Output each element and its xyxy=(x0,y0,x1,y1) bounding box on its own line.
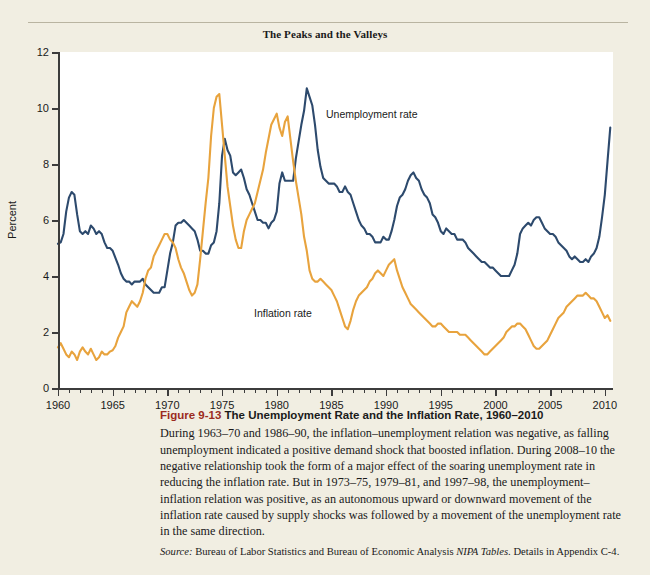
x-axis-minor-tick xyxy=(419,389,420,393)
figure-page: The Peaks and the Valleys Percent 024681… xyxy=(0,0,650,575)
x-axis-tick-label: 1960 xyxy=(46,399,70,411)
x-axis-minor-tick xyxy=(342,389,343,393)
y-axis-line xyxy=(58,52,60,388)
chart-series-lines xyxy=(58,52,613,388)
inflation-rate-line xyxy=(58,94,610,360)
x-axis-minor-tick xyxy=(561,389,562,393)
x-axis-minor-tick xyxy=(102,389,103,393)
x-axis-line xyxy=(58,388,613,390)
x-axis-minor-tick xyxy=(528,389,529,393)
inflation-rate-label: Inflation rate xyxy=(254,307,312,319)
x-axis-major-tick xyxy=(222,389,223,396)
y-axis-tick-label: 8 xyxy=(43,158,49,170)
x-axis-minor-tick xyxy=(430,389,431,393)
caption-heading-line: Figure 9-13 The Unemployment Rate and th… xyxy=(160,408,628,422)
x-axis-minor-tick xyxy=(299,389,300,393)
x-axis-minor-tick xyxy=(310,389,311,393)
x-axis-minor-tick xyxy=(91,389,92,393)
x-axis-major-tick xyxy=(550,389,551,396)
x-axis-minor-tick xyxy=(452,389,453,393)
x-axis-major-tick xyxy=(495,389,496,396)
x-axis-minor-tick xyxy=(156,389,157,393)
source-text-a: Bureau of Labor Statistics and Bureau of… xyxy=(193,546,457,557)
x-axis-minor-tick xyxy=(408,389,409,393)
x-axis-minor-tick xyxy=(69,389,70,393)
x-axis-minor-tick xyxy=(375,389,376,393)
source-text-b: . Details in Appendix C-4. xyxy=(508,546,619,557)
x-axis-minor-tick xyxy=(244,389,245,393)
caption-heading-text: The Unemployment Rate and the Inflation … xyxy=(225,409,544,421)
x-axis-major-tick xyxy=(441,389,442,396)
x-axis-minor-tick xyxy=(397,389,398,393)
figure-caption: Figure 9-13 The Unemployment Rate and th… xyxy=(160,408,628,559)
x-axis-minor-tick xyxy=(288,389,289,393)
x-axis-major-tick xyxy=(386,389,387,396)
x-axis-minor-tick xyxy=(572,389,573,393)
x-axis-minor-tick xyxy=(506,389,507,393)
x-axis-minor-tick xyxy=(200,389,201,393)
y-axis-tick-label: 12 xyxy=(37,46,49,58)
x-axis-minor-tick xyxy=(255,389,256,393)
x-axis-minor-tick xyxy=(594,389,595,393)
source-italic-title: NIPA Tables xyxy=(456,546,508,557)
y-axis-tick-label: 10 xyxy=(37,102,49,114)
caption-source: Source: Bureau of Labor Statistics and B… xyxy=(160,545,628,559)
y-axis-tick-label: 6 xyxy=(43,214,49,226)
x-axis-major-tick xyxy=(167,389,168,396)
x-axis-minor-tick xyxy=(353,389,354,393)
top-divider xyxy=(28,22,628,23)
source-label: Source: xyxy=(160,546,193,557)
x-axis-minor-tick xyxy=(178,389,179,393)
x-axis-minor-tick xyxy=(474,389,475,393)
x-axis-minor-tick xyxy=(211,389,212,393)
y-axis-title: Percent xyxy=(6,201,18,239)
x-axis-minor-tick xyxy=(320,389,321,393)
x-axis-minor-tick xyxy=(463,389,464,393)
x-axis-minor-tick xyxy=(517,389,518,393)
caption-body: During 1963–70 and 1986–90, the inflatio… xyxy=(160,425,628,539)
unemployment-rate-label: Unemployment rate xyxy=(326,108,418,120)
x-axis-major-tick xyxy=(277,389,278,396)
y-axis-tick-label: 2 xyxy=(43,326,49,338)
x-axis-tick-label: 1965 xyxy=(100,399,124,411)
x-axis-minor-tick xyxy=(539,389,540,393)
x-axis-major-tick xyxy=(113,389,114,396)
x-axis-minor-tick xyxy=(364,389,365,393)
x-axis-minor-tick xyxy=(135,389,136,393)
x-axis-minor-tick xyxy=(266,389,267,393)
x-axis-minor-tick xyxy=(233,389,234,393)
x-axis-minor-tick xyxy=(80,389,81,393)
x-axis-minor-tick xyxy=(145,389,146,393)
x-axis-major-tick xyxy=(331,389,332,396)
x-axis-major-tick xyxy=(605,389,606,396)
x-axis-minor-tick xyxy=(583,389,584,393)
chart-plot-area: Percent 024681012 1960196519701975198019… xyxy=(58,52,613,388)
y-axis-tick-label: 4 xyxy=(43,270,49,282)
chart-title: The Peaks and the Valleys xyxy=(0,28,650,40)
y-axis-tick-label: 0 xyxy=(43,382,49,394)
x-axis-minor-tick xyxy=(485,389,486,393)
x-axis-minor-tick xyxy=(189,389,190,393)
x-axis-major-tick xyxy=(58,389,59,396)
x-axis-minor-tick xyxy=(124,389,125,393)
caption-figure-number: Figure 9-13 xyxy=(160,409,221,421)
